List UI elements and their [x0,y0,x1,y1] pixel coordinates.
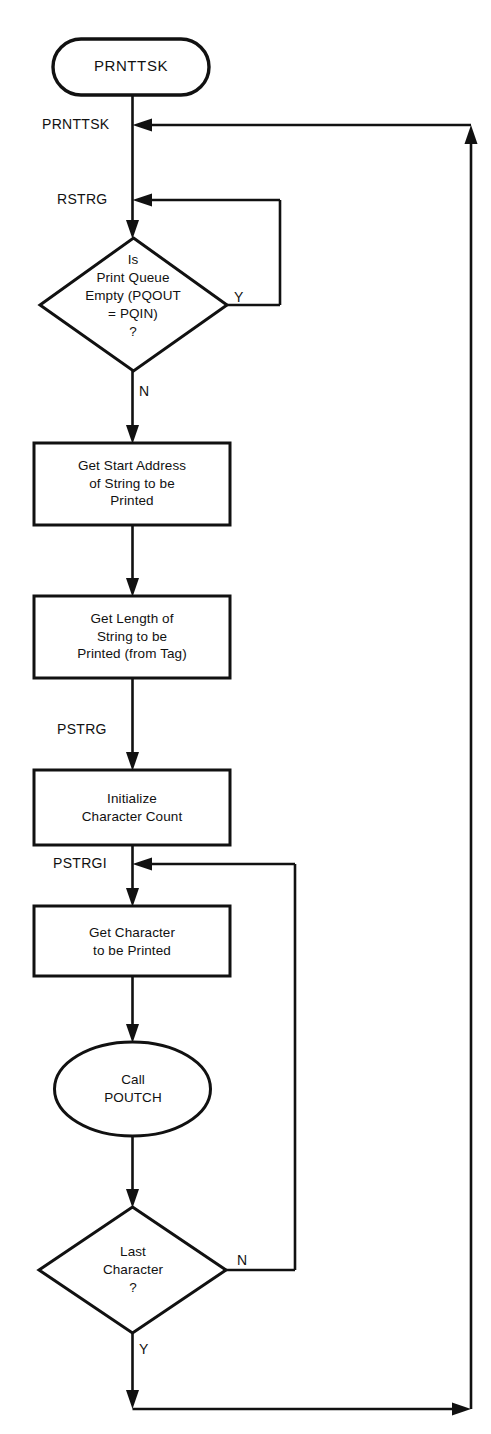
connector-label-prnttsk: PRNTTSK [42,116,109,132]
arrowhead-last-character-yes-down [126,1390,139,1409]
process-get-start-address-shape [34,443,230,525]
branch-label-last-character-no: N [237,1252,247,1268]
arrowhead-queue-empty-yes-to-rstrg [133,194,153,207]
flowchart-diagram: PRNTTSK Is Print Queue Empty (PQOUT = PQ… [0,0,491,1434]
arrowhead-into-call-poutch [126,1024,139,1043]
arrowhead-bottom-return-to-outer [452,1403,471,1416]
flowchart-canvas [0,0,491,1434]
arrowhead-into-get-character [126,888,139,907]
arrowhead-last-character-no-to-pstrgi [133,858,153,871]
process-get-character-shape [34,906,230,976]
arrowhead-outer-return-to-prnttsk [133,119,153,132]
process-get-length-shape [34,596,230,678]
arrowhead-into-decision-queue [126,220,139,239]
arrowhead-into-init-count [126,752,139,771]
branch-label-queue-empty-yes: Y [234,289,244,305]
start-terminator-shape [53,39,209,95]
subroutine-call-poutch-shape [55,1042,211,1136]
decision-last-character-shape [39,1207,226,1333]
connector-label-pstrg: PSTRG [57,721,107,737]
branch-label-last-character-yes: Y [139,1341,149,1357]
arrowhead-into-last-character [126,1189,139,1208]
arrowhead-into-get-length [126,578,139,597]
arrowhead-into-get-start-address [126,425,139,444]
decision-queue-empty-shape [40,238,227,371]
process-init-count-shape [34,770,230,845]
connector-label-pstrgi: PSTRGI [53,855,107,871]
branch-label-queue-empty-no: N [139,383,149,399]
connector-label-rstrg: RSTRG [57,191,108,207]
arrowhead-outer-return-up [465,125,478,144]
